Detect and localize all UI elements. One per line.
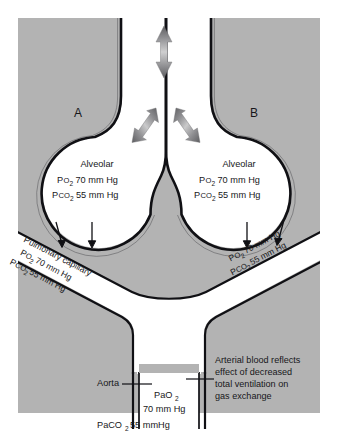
annotation-line-1: Arterial blood reflects [215,355,301,365]
alveolus-a-pco2-p: P [52,190,58,200]
aorta-label: Aorta [97,378,120,388]
alveolus-a-pco2-2: 2 [70,195,74,202]
aorta-tissue-band [139,364,199,373]
alveolus-b-pco2-2: 2 [212,195,216,202]
annotation-line-2: effect of decreased [215,367,292,377]
alveolus-a-po2-value: 70 mm Hg [76,175,118,185]
alveolus-b-po2-2: 2 [212,180,216,187]
figure-root: A B Alveolar P O 2 70 mm Hg P CO 2 55 mm… [0,0,338,440]
alveolus-b-pco2-co: CO [201,191,212,200]
alveolus-b-po2-p: P [199,175,205,185]
alveolus-b-marker: B [250,106,258,120]
alveolus-a-po2-2: 2 [70,180,74,187]
aorta-paco2-value: 55 mmHg [130,420,170,430]
alveolus-a-title: Alveolar [80,159,113,169]
alveolus-a-pco2-value: 55 mm Hg [76,190,118,200]
alveolus-a-pco2-co: CO [59,191,70,200]
alveolus-b-po2-value: 70 mm Hg [218,175,260,185]
aorta-paco2-text: PaCO [97,420,122,430]
alveolus-b-title: Alveolar [222,159,255,169]
aorta-pao2-sub: 2 [175,395,179,402]
alveolus-a-po2-p: P [57,175,63,185]
alveolus-b-pco2-value: 55 mm Hg [218,190,260,200]
alveolus-a-marker: A [74,106,82,120]
aorta-paco2: PaCO 2 55 mmHg [97,420,170,432]
aorta-pao2-text: PaO [154,390,172,400]
annotation-line-3: total ventilation on [215,379,288,389]
alveolar-gas-exchange-diagram: A B Alveolar P O 2 70 mm Hg P CO 2 55 mm… [0,0,338,440]
aorta-pao2-value: 70 mm Hg [143,404,185,414]
aorta-paco2-sub: 2 [125,425,129,432]
annotation-line-4: gas exchange [215,391,272,401]
alveolus-b-pco2-p: P [194,190,200,200]
